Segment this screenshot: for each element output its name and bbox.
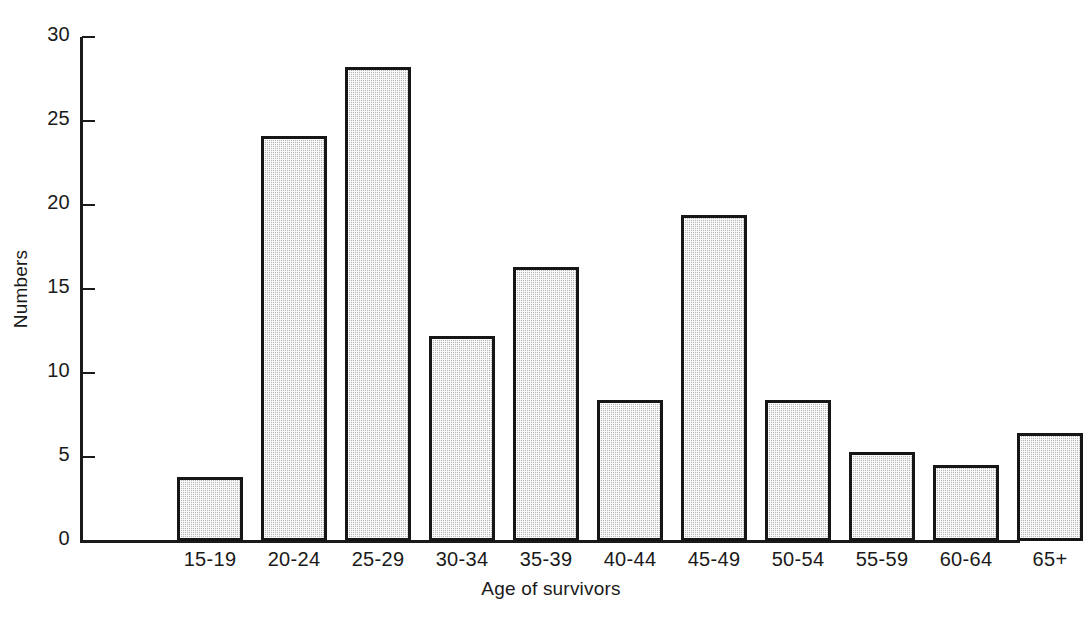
y-axis-tick-label: 0	[28, 527, 70, 550]
bar-25-29	[345, 67, 411, 541]
y-axis-tick-label: 15	[28, 275, 70, 298]
y-axis-tick-label: 30	[28, 23, 70, 46]
y-axis-tick-label: 10	[28, 359, 70, 382]
bar-65+	[1017, 433, 1083, 541]
y-axis-tick-label: 25	[28, 107, 70, 130]
bar-60-64	[933, 465, 999, 541]
plot-area	[80, 37, 1020, 541]
x-axis-tick-label: 65+	[990, 548, 1087, 571]
x-axis-label: Age of survivors	[97, 578, 1005, 600]
y-axis-tick-label: 20	[28, 191, 70, 214]
bar-30-34	[429, 336, 495, 541]
bar-40-44	[597, 400, 663, 541]
bar-50-54	[765, 400, 831, 541]
bar-35-39	[513, 267, 579, 541]
bar-15-19	[177, 477, 243, 541]
bar-20-24	[261, 136, 327, 541]
bar-55-59	[849, 452, 915, 541]
y-axis-tick-label: 5	[28, 443, 70, 466]
bar-45-49	[681, 215, 747, 541]
